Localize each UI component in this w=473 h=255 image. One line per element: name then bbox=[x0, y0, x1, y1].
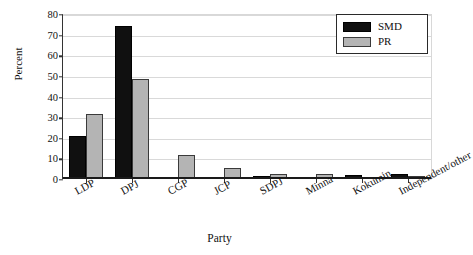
bar-group bbox=[247, 15, 293, 179]
x-category-label: LDP bbox=[73, 177, 97, 196]
legend: SMD PR bbox=[336, 14, 428, 54]
x-category-label: CGP bbox=[166, 177, 190, 197]
bar-smd-dpj bbox=[115, 26, 132, 179]
x-category-label: JCP bbox=[212, 179, 233, 197]
black-swatch-icon bbox=[343, 22, 371, 32]
legend-label: SMD bbox=[378, 21, 402, 32]
bar-pr-ldp bbox=[86, 114, 103, 179]
legend-item: SMD bbox=[343, 19, 421, 34]
x-axis-title: Party bbox=[0, 232, 439, 244]
x-category-label: DPJ bbox=[119, 178, 140, 196]
y-axis-title: Percent bbox=[12, 24, 24, 104]
bar-group bbox=[155, 15, 201, 179]
gray-swatch-icon bbox=[343, 37, 371, 47]
legend-item: PR bbox=[343, 34, 421, 49]
bar-pr-dpj bbox=[132, 79, 149, 179]
bar-group bbox=[293, 15, 339, 179]
bar-group bbox=[109, 15, 155, 179]
bar-group bbox=[63, 15, 109, 179]
bar-group bbox=[201, 15, 247, 179]
bar-smd-ldp bbox=[69, 136, 86, 179]
bar-pr-cgp bbox=[178, 155, 195, 179]
legend-label: PR bbox=[378, 36, 391, 47]
